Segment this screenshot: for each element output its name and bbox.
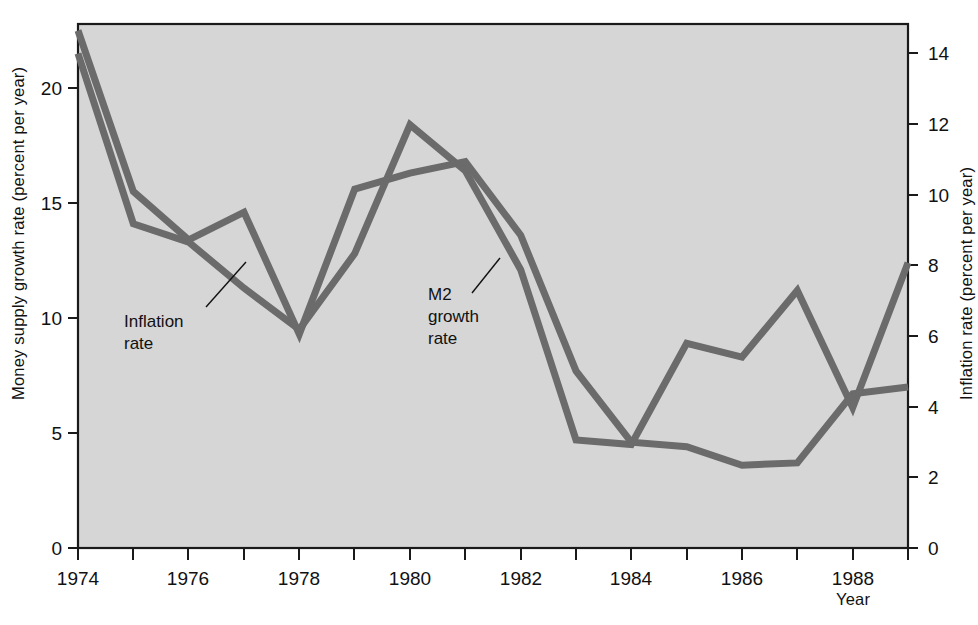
annotation-inflation-line2: rate — [124, 334, 153, 353]
y-axis-left-labels: 0 5 10 15 20 — [41, 78, 62, 559]
y-left-tick-20: 20 — [41, 78, 62, 99]
y-left-tick-5: 5 — [51, 423, 62, 444]
y-right-tick-10: 10 — [928, 185, 949, 206]
x-axis-title: Year — [836, 590, 870, 608]
y-axis-right-labels: 0 2 4 6 8 10 12 14 — [928, 43, 950, 559]
y-left-tick-0: 0 — [51, 538, 62, 559]
annotation-m2-line1: M2 — [428, 285, 452, 304]
y-right-tick-2: 2 — [928, 467, 939, 488]
y-axis-right-ticks — [908, 53, 918, 548]
annotation-inflation-line1: Inflation — [124, 312, 184, 331]
x-tick-1984: 1984 — [610, 568, 653, 589]
chart-figure: 0 5 10 15 20 Money supply growth rate (p… — [0, 0, 978, 625]
money-supply-inflation-chart: 0 5 10 15 20 Money supply growth rate (p… — [0, 0, 978, 625]
x-tick-1988: 1988 — [832, 568, 874, 589]
plot-background — [78, 24, 908, 548]
y-axis-right-title: Inflation rate (percent per year) — [957, 167, 975, 400]
y-right-tick-12: 12 — [928, 114, 949, 135]
x-tick-1976: 1976 — [167, 568, 209, 589]
x-tick-1982: 1982 — [500, 568, 542, 589]
annotation-m2-line2: growth — [428, 307, 479, 326]
y-left-tick-10: 10 — [41, 308, 62, 329]
x-axis-labels: 1974 1976 1978 1980 1982 1984 1986 1988 — [57, 568, 874, 589]
annotation-m2-line3: rate — [428, 329, 457, 348]
y-right-tick-8: 8 — [928, 255, 939, 276]
y-axis-left-title: Money supply growth rate (percent per ye… — [9, 67, 27, 400]
y-right-tick-6: 6 — [928, 326, 939, 347]
y-axis-left-ticks — [68, 88, 78, 548]
x-tick-1978: 1978 — [278, 568, 320, 589]
x-tick-1974: 1974 — [57, 568, 100, 589]
y-right-tick-14: 14 — [928, 43, 950, 64]
y-left-tick-15: 15 — [41, 193, 62, 214]
x-tick-1986: 1986 — [721, 568, 763, 589]
x-tick-1980: 1980 — [389, 568, 431, 589]
y-right-tick-4: 4 — [928, 397, 939, 418]
y-right-tick-0: 0 — [928, 538, 939, 559]
x-axis-ticks — [78, 548, 908, 560]
